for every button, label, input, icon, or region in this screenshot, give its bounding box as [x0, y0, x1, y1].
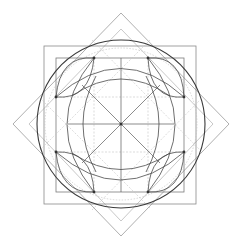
node: [147, 191, 150, 194]
node: [55, 96, 58, 99]
geometric-diagram: [0, 0, 240, 248]
node: [183, 96, 186, 99]
center-node: [120, 123, 123, 126]
node: [55, 151, 58, 154]
node: [183, 151, 186, 154]
node: [93, 191, 96, 194]
node: [93, 57, 96, 60]
node: [147, 57, 150, 60]
